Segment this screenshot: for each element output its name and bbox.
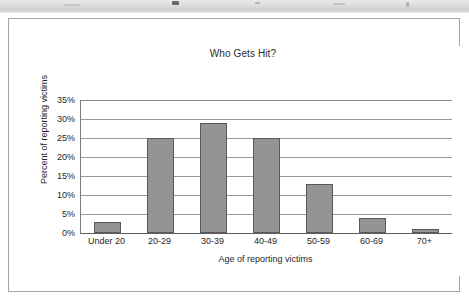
- x-axis-title: Age of reporting victims: [80, 254, 451, 264]
- cropped-window-toolbar-strip: [0, 0, 469, 13]
- x-axis-tick-label: Under 20: [80, 236, 133, 246]
- bar: [359, 218, 386, 233]
- bar: [94, 222, 121, 233]
- y-axis-tick-label: 0%: [62, 228, 75, 238]
- x-axis-tick-label: 40-49: [239, 236, 292, 246]
- y-axis-tick-label: 15%: [57, 171, 75, 181]
- bar: [253, 138, 280, 233]
- y-axis-tick-label: 20%: [57, 152, 75, 162]
- x-axis-tick-label: 30-39: [186, 236, 239, 246]
- bar: [306, 184, 333, 233]
- bar-series: [81, 100, 452, 233]
- bar: [147, 138, 174, 233]
- toolbar-smudge-mark: [333, 3, 345, 5]
- y-axis-tick-label: 10%: [57, 190, 75, 200]
- bar-slot: [293, 100, 346, 233]
- bar-slot: [240, 100, 293, 233]
- chart-title: Who Gets Hit?: [22, 48, 464, 59]
- bar-slot: [134, 100, 187, 233]
- bar-slot: [346, 100, 399, 233]
- bar-slot: [81, 100, 134, 233]
- bar: [200, 123, 227, 233]
- y-axis-tick-label: 30%: [57, 114, 75, 124]
- bar-slot: [399, 100, 452, 233]
- toolbar-smudge-mark: [63, 4, 81, 6]
- bar: [412, 229, 439, 233]
- bar-slot: [187, 100, 240, 233]
- document-page-frame: Who Gets Hit? Percent of reporting victi…: [8, 18, 460, 292]
- y-axis-tick-labels: 35%30%25%20%15%10%5%0%: [40, 100, 78, 233]
- x-axis-tick-label: 50-59: [292, 236, 345, 246]
- toolbar-smudge-mark: [406, 2, 409, 7]
- toolbar-smudge-mark: [172, 1, 179, 5]
- y-axis-tick-label: 5%: [62, 209, 75, 219]
- toolbar-smudge-mark: [255, 2, 260, 4]
- plot-area: [80, 100, 452, 234]
- y-axis-tick-label: 25%: [57, 133, 75, 143]
- y-axis-tick-label: 35%: [57, 95, 75, 105]
- x-axis-tick-label: 20-29: [133, 236, 186, 246]
- bar-chart: Who Gets Hit? Percent of reporting victi…: [22, 46, 464, 276]
- x-axis-tick-label: 60-69: [345, 236, 398, 246]
- x-axis-tick-label: 70+: [398, 236, 451, 246]
- x-axis-tick-labels: Under 2020-2930-3940-4950-5960-6970+: [80, 236, 451, 246]
